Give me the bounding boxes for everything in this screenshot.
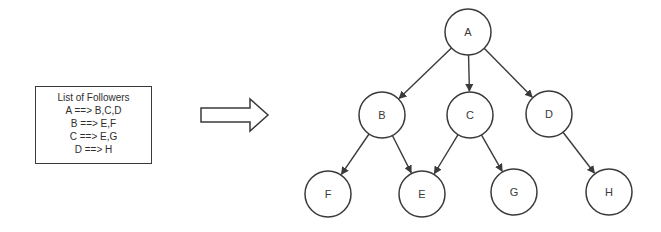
node-label: D bbox=[545, 108, 553, 120]
node-label: F bbox=[325, 188, 332, 200]
graph-nodes: ABCDFEGH bbox=[305, 9, 632, 217]
node-label: C bbox=[466, 109, 474, 121]
edge-c-to-g bbox=[481, 135, 502, 171]
node-label: G bbox=[510, 186, 519, 198]
node-b: B bbox=[359, 92, 405, 138]
node-label: B bbox=[378, 109, 385, 121]
node-label: H bbox=[605, 186, 613, 198]
block-arrow-right-icon bbox=[201, 99, 268, 131]
edge-a-to-b bbox=[399, 48, 451, 98]
edge-b-to-e bbox=[392, 136, 411, 173]
edge-d-to-h bbox=[563, 132, 594, 173]
node-h: H bbox=[586, 169, 632, 215]
node-label: A bbox=[464, 26, 472, 38]
edge-b-to-f bbox=[342, 134, 369, 174]
edge-a-to-c bbox=[469, 55, 470, 91]
diagram-canvas: ABCDFEGH bbox=[0, 0, 661, 232]
node-label: E bbox=[418, 188, 425, 200]
node-g: G bbox=[491, 169, 537, 215]
node-e: E bbox=[399, 171, 445, 217]
node-a: A bbox=[445, 9, 491, 55]
node-c: C bbox=[447, 92, 493, 138]
node-d: D bbox=[526, 91, 572, 137]
node-f: F bbox=[305, 171, 351, 217]
edge-a-to-d bbox=[484, 48, 532, 97]
edge-c-to-e bbox=[434, 135, 458, 174]
